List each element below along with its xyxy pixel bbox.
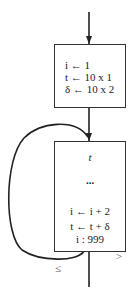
init-box: i ← 1 t ← 10 x 1 δ ← 10 x 2: [54, 44, 126, 108]
init-line-3: δ ← 10 x 2: [65, 83, 114, 95]
loop-line-3: i : 999: [55, 233, 125, 245]
loop-line-2: t ← t + δ: [55, 220, 125, 232]
init-line-1: i ← 1: [65, 59, 90, 71]
exit-condition: >: [116, 250, 122, 262]
init-line-2: t ← 10 x 1: [65, 71, 112, 83]
loop-back-condition: ≤: [55, 262, 61, 274]
loop-top-label: t: [55, 151, 125, 163]
loop-line-1: i ← i + 2: [55, 205, 125, 217]
loop-ellipsis: ...: [55, 174, 125, 186]
loop-box: t ... i ← i + 2 t ← t + δ i : 999: [54, 141, 126, 252]
